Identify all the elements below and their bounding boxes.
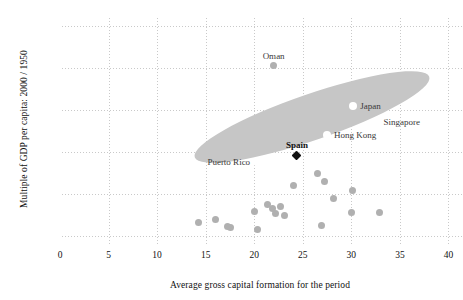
x-tick-label: 25 [283, 250, 323, 260]
data-point [227, 224, 234, 231]
x-tick-label: 35 [380, 250, 420, 260]
x-tick-label: 40 [428, 250, 463, 260]
data-point [251, 208, 258, 215]
data-point [254, 226, 261, 233]
point-label-puerto-rico: Puerto Rico [207, 157, 250, 167]
plot-area: OmanJapanSingaporeHong KongSpainPuerto R… [60, 18, 463, 246]
data-point [330, 195, 337, 202]
data-point [318, 222, 325, 229]
y-axis-title: Multiple of GDP per capita: 2000 / 1950 [19, 9, 29, 249]
x-tick-label: 15 [186, 250, 226, 260]
gridline-vertical [109, 18, 110, 246]
point-label-hong-kong: Hong Kong [334, 130, 376, 140]
x-tick-label: 10 [137, 250, 177, 260]
data-point-singapore [373, 118, 381, 126]
x-tick-label: 5 [89, 250, 129, 260]
point-label-oman: Oman [263, 51, 285, 61]
gridline-horizontal [60, 68, 463, 69]
x-tick-label: 20 [234, 250, 274, 260]
data-point [348, 209, 355, 216]
data-point [290, 182, 297, 189]
gridline-vertical [157, 18, 158, 246]
data-point [321, 178, 328, 185]
data-point-puerto-rico [253, 158, 261, 166]
data-point [212, 216, 219, 223]
data-point [281, 212, 288, 219]
x-tick-label: 0 [40, 250, 80, 260]
scatter-chart-figure: Multiple of GDP per capita: 2000 / 1950 … [0, 0, 463, 300]
gridline-vertical [448, 18, 449, 246]
point-label-japan: Japan [360, 101, 381, 111]
gridline-vertical [206, 18, 207, 246]
data-point [272, 210, 279, 217]
x-tick-label: 30 [331, 250, 371, 260]
data-point [314, 170, 321, 177]
data-point [195, 219, 202, 226]
point-label-spain: Spain [286, 140, 308, 150]
gridline-horizontal [60, 236, 463, 237]
gridline-vertical [400, 18, 401, 246]
gridline-horizontal [60, 26, 463, 27]
data-point [277, 203, 284, 210]
data-point [376, 209, 383, 216]
x-axis-title: Average gross capital formation for the … [60, 280, 460, 290]
point-label-singapore: Singapore [384, 117, 421, 127]
gridline-horizontal [60, 194, 463, 195]
data-point-hong-kong [323, 131, 331, 139]
data-point [349, 187, 356, 194]
